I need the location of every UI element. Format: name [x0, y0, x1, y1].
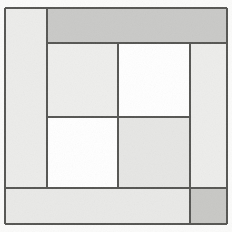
divider-outer-top-edge [5, 7, 227, 9]
divider-top-band-bottom [47, 42, 227, 44]
block-inner-upper-left [47, 43, 118, 117]
block-right-strip [190, 43, 227, 188]
block-bottom-right-corner [190, 188, 227, 224]
block-left-strip [5, 8, 47, 188]
block-lower-left-white [47, 117, 118, 188]
block-bottom-band [5, 188, 190, 224]
divider-outer-bottom-edge [5, 223, 227, 225]
divider-bottom-band-top [5, 187, 227, 189]
divider-outer-right-edge [226, 8, 228, 224]
divider-outer-left-edge [4, 8, 6, 224]
divider-center-vertical [117, 43, 119, 188]
divider-right-strip-left [189, 43, 191, 224]
block-top-band [47, 8, 227, 43]
divider-left-strip-right [46, 8, 48, 188]
block-center-lower-gray [118, 117, 190, 188]
artwork-canvas [0, 0, 232, 232]
block-upper-right-white [118, 43, 190, 117]
